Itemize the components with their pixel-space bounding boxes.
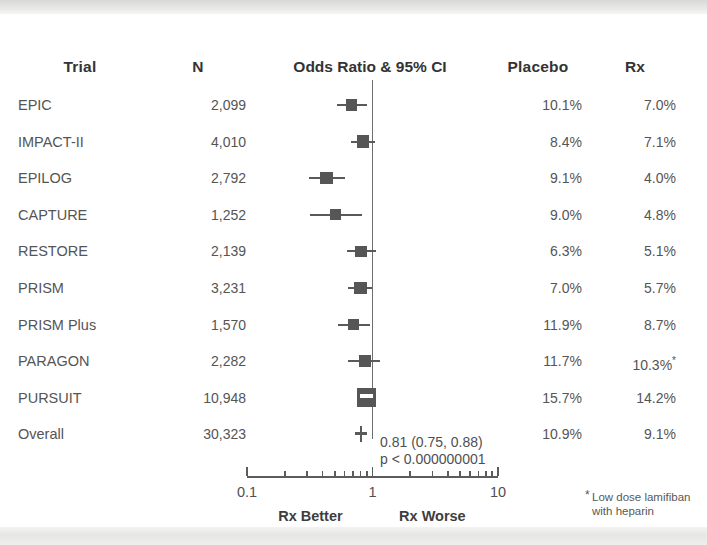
- rx-rate-value: 7.1%: [644, 134, 676, 150]
- trial-n-value: 2,139: [158, 242, 246, 260]
- rx-rate-value: 4.8%: [644, 207, 676, 223]
- axis-tick-minor: [334, 471, 336, 476]
- trial-n-value: 4,010: [158, 133, 246, 151]
- axis-tick-label: 10: [468, 484, 528, 500]
- trial-n-value: 30,323: [158, 425, 246, 443]
- confidence-interval-line: [348, 360, 379, 362]
- footnote-text: Low dose lamifiban with heparin: [592, 490, 704, 518]
- rx-rate: 7.0%: [600, 96, 676, 114]
- trial-label: PURSUIT: [18, 389, 158, 407]
- rx-rate: 4.8%: [600, 206, 676, 224]
- trial-n-value: 1,570: [158, 316, 246, 334]
- overall-summary-marker: [355, 426, 368, 442]
- rx-rate-value: 10.3%: [632, 357, 672, 373]
- axis-tick-major: [497, 467, 499, 476]
- axis-tick-minor: [447, 471, 449, 476]
- axis-tick-minor: [409, 471, 411, 476]
- confidence-interval-line: [337, 104, 367, 106]
- confidence-interval-line: [347, 250, 375, 252]
- confidence-interval-line: [309, 177, 345, 179]
- axis-label-rx-better: Rx Better: [250, 508, 370, 524]
- axis-tick-minor: [284, 471, 286, 476]
- trial-label: Overall: [18, 425, 158, 443]
- trial-label: PRISM: [18, 279, 158, 297]
- overall-estimate-annotation: 0.81 (0.75, 0.88) p < 0.000000001: [380, 434, 486, 468]
- trial-n-value: 3,231: [158, 279, 246, 297]
- overall-estimate-value: 0.81 (0.75, 0.88): [380, 434, 486, 451]
- trial-label: PARAGON: [18, 352, 158, 370]
- trial-label: EPILOG: [18, 169, 158, 187]
- rx-rate: 5.1%: [600, 242, 676, 260]
- odds-ratio-marker: [346, 99, 358, 111]
- axis-tick-minor: [306, 471, 308, 476]
- rx-rate-value: 9.1%: [644, 426, 676, 442]
- null-effect-line: [372, 80, 374, 439]
- axis-tick-minor: [478, 471, 480, 476]
- trial-n-value: 1,252: [158, 206, 246, 224]
- summary-marker-stem: [360, 426, 362, 442]
- placebo-rate: 10.9%: [496, 425, 582, 443]
- odds-ratio-marker: [330, 209, 341, 220]
- trial-n-value: 2,282: [158, 352, 246, 370]
- forest-plot-area: [0, 14, 707, 527]
- axis-tick-minor: [322, 471, 324, 476]
- trial-label: EPIC: [18, 96, 158, 114]
- trial-n-value: 2,099: [158, 96, 246, 114]
- odds-ratio-marker: [320, 172, 332, 184]
- placebo-rate: 9.0%: [496, 206, 582, 224]
- trial-label: IMPACT-II: [18, 133, 158, 151]
- trial-label: CAPTURE: [18, 206, 158, 224]
- rx-rate-value: 8.7%: [644, 317, 676, 333]
- rx-rate-value: 5.1%: [644, 243, 676, 259]
- rx-rate-value: 5.7%: [644, 280, 676, 296]
- rx-rate-value: 4.0%: [644, 170, 676, 186]
- column-header-trial: Trial: [18, 58, 142, 78]
- overall-pvalue: p < 0.000000001: [380, 451, 486, 468]
- odds-ratio-marker: [357, 388, 376, 407]
- placebo-rate: 9.1%: [496, 169, 582, 187]
- odds-ratio-marker: [357, 135, 370, 148]
- column-header-rx: Rx: [598, 58, 672, 78]
- rx-footnote-marker: *: [672, 355, 676, 366]
- trial-label: RESTORE: [18, 242, 158, 260]
- rx-rate: 5.7%: [600, 279, 676, 297]
- rx-rate-value: 14.2%: [636, 390, 676, 406]
- placebo-rate: 7.0%: [496, 279, 582, 297]
- placebo-rate: 15.7%: [496, 389, 582, 407]
- trial-n-value: 10,948: [158, 389, 246, 407]
- placebo-rate: 11.7%: [496, 352, 582, 370]
- rx-rate: 7.1%: [600, 133, 676, 151]
- column-header-odds-ratio: Odds Ratio & 95% CI: [250, 58, 490, 76]
- confidence-interval-line: [338, 324, 370, 326]
- placebo-rate: 8.4%: [496, 133, 582, 151]
- axis-tick-minor: [459, 471, 461, 476]
- placebo-rate: 10.1%: [496, 96, 582, 114]
- axis-tick-minor: [491, 471, 493, 476]
- confidence-interval-line: [310, 214, 361, 216]
- forest-plot-figure: Trial N Odds Ratio & 95% CI Placebo Rx E…: [0, 14, 707, 527]
- placebo-rate: 11.9%: [496, 316, 582, 334]
- odds-ratio-marker: [348, 319, 359, 330]
- confidence-interval-line: [351, 141, 375, 143]
- confidence-interval-line: [348, 287, 372, 289]
- footnote-marker: *: [585, 488, 590, 502]
- axis-label-rx-worse: Rx Worse: [372, 508, 492, 524]
- axis-tick-minor: [366, 471, 368, 476]
- axis-tick-minor: [469, 471, 471, 476]
- summary-marker-bar: [355, 432, 368, 434]
- page-band-bottom: [0, 527, 707, 545]
- confidence-interval-line: [362, 397, 371, 399]
- rx-rate-value: 7.0%: [644, 97, 676, 113]
- odds-ratio-marker: [354, 282, 366, 294]
- page-band-top: [0, 0, 707, 14]
- column-header-placebo: Placebo: [490, 58, 586, 78]
- axis-tick-minor: [344, 471, 346, 476]
- column-header-n: N: [150, 58, 246, 78]
- axis-tick-label: 0.1: [217, 484, 277, 500]
- odds-ratio-marker: [359, 355, 371, 367]
- axis-tick-label: 1: [343, 484, 403, 500]
- trial-label: PRISM Plus: [18, 316, 158, 334]
- rx-rate: 9.1%: [600, 425, 676, 443]
- odds-ratio-marker: [355, 246, 367, 258]
- axis-tick-major: [372, 467, 374, 476]
